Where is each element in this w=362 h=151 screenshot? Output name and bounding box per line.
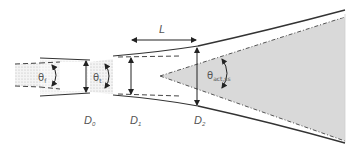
nozzle-spray-diagram: L θf θt θact,ss D0 D1 D2	[0, 0, 362, 151]
L-label: L	[159, 23, 165, 35]
spray-cone	[160, 10, 345, 143]
D1-label: D1	[130, 114, 141, 127]
converging-nozzle-walls	[40, 58, 90, 96]
D2-label: D2	[194, 114, 206, 127]
D0-label: D0	[84, 114, 96, 127]
inlet-flow-region	[15, 63, 40, 87]
